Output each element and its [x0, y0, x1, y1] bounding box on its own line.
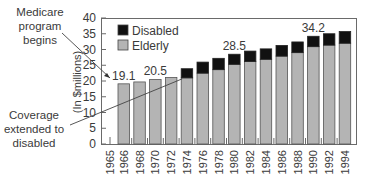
- bar-segment-elderly: [292, 53, 304, 144]
- x-tick-label: 1980: [228, 150, 240, 174]
- y-tick-label: 25: [83, 58, 97, 72]
- annotation-medicare-begins: program: [19, 20, 62, 32]
- y-tick-label: 5: [89, 121, 96, 135]
- bar-segment-disabled: [308, 36, 320, 46]
- bar-1986: [276, 45, 288, 144]
- bar-segment-elderly: [260, 59, 272, 144]
- bar-1976: [197, 62, 209, 144]
- x-tick-label: 1972: [165, 150, 177, 174]
- x-tick-label: 1970: [149, 150, 161, 174]
- bar-segment-elderly: [118, 84, 130, 144]
- x-tick-label: 1984: [260, 150, 272, 174]
- bar-1972: [165, 78, 177, 144]
- bar-1970: [150, 79, 162, 144]
- x-tick-label: 1965: [104, 150, 116, 174]
- y-tick-label: 40: [83, 11, 97, 25]
- annotation-medicare-begins: Medicare: [16, 6, 63, 18]
- legend-label-disabled: Disabled: [132, 24, 179, 38]
- bar-1968: [134, 82, 146, 144]
- bar-segment-elderly: [150, 79, 162, 144]
- bar-1978: [213, 58, 225, 144]
- x-tick-label: 1990: [307, 150, 319, 174]
- bar-segment-disabled: [181, 69, 193, 78]
- bar-segment-disabled: [244, 51, 256, 61]
- annotation-coverage-disabled: Coverage: [9, 109, 59, 121]
- bar-segment-disabled: [276, 45, 288, 56]
- bar-segment-elderly: [165, 78, 177, 144]
- legend-swatch-elderly: [118, 40, 128, 50]
- bar-segment-disabled: [292, 42, 304, 53]
- bar-segment-elderly: [244, 61, 256, 144]
- bar-1982: [244, 51, 256, 144]
- x-tick-label: 1974: [181, 150, 193, 174]
- bar-1966: [118, 84, 130, 144]
- y-tick-label: 35: [83, 27, 97, 41]
- data-label: 28.5: [223, 39, 247, 53]
- bar-segment-disabled: [197, 62, 209, 73]
- annotation-coverage-disabled: extended to: [4, 123, 64, 135]
- bar-segment-elderly: [134, 82, 146, 144]
- x-tick-label: 1988: [292, 150, 304, 174]
- bar-1974: [181, 69, 193, 144]
- y-tick-label: 15: [83, 90, 97, 104]
- x-tick-label: 1966: [118, 150, 130, 174]
- bar-segment-elderly: [276, 56, 288, 144]
- bar-segment-disabled: [260, 49, 272, 59]
- bar-segment-elderly: [339, 43, 351, 144]
- bar-segment-disabled: [213, 58, 225, 69]
- bar-segment-disabled: [229, 54, 241, 64]
- x-tick-label: 1968: [134, 150, 146, 174]
- y-tick-label: 0: [89, 137, 96, 151]
- x-tick-label: 1994: [339, 150, 351, 174]
- bar-1984: [260, 49, 272, 144]
- x-tick-label: 1976: [197, 150, 209, 174]
- bar-segment-elderly: [213, 70, 225, 144]
- annotation-coverage-disabled: disabled: [13, 137, 56, 149]
- data-label: 34.2: [302, 21, 326, 35]
- legend-label-elderly: Elderly: [132, 39, 169, 53]
- x-tick-label: 1992: [323, 150, 335, 174]
- x-tick-label: 1978: [213, 150, 225, 174]
- x-tick-label: 1982: [244, 150, 256, 174]
- bar-segment-elderly: [197, 73, 209, 144]
- data-label: 20.5: [144, 64, 168, 78]
- y-axis-label: (In $millions): [71, 51, 83, 113]
- bar-1992: [323, 34, 335, 144]
- annotation-medicare-begins: begins: [23, 34, 57, 46]
- bar-segment-disabled: [339, 32, 351, 44]
- legend-swatch-disabled: [118, 25, 128, 35]
- x-tick-label: 1986: [276, 150, 288, 174]
- bar-segment-elderly: [229, 64, 241, 144]
- bar-1990: [308, 36, 320, 144]
- data-label: 19.1: [112, 69, 136, 83]
- bar-1980: [229, 54, 241, 144]
- bar-1988: [292, 42, 304, 144]
- bar-segment-elderly: [308, 47, 320, 144]
- medicare-bar-chart: 0510152025303540 (In $millions) 19651966…: [0, 0, 371, 181]
- bar-segment-elderly: [181, 78, 193, 144]
- bar-segment-disabled: [323, 34, 335, 45]
- y-tick-label: 20: [83, 74, 97, 88]
- bar-1994: [339, 32, 351, 144]
- bar-segment-elderly: [323, 45, 335, 144]
